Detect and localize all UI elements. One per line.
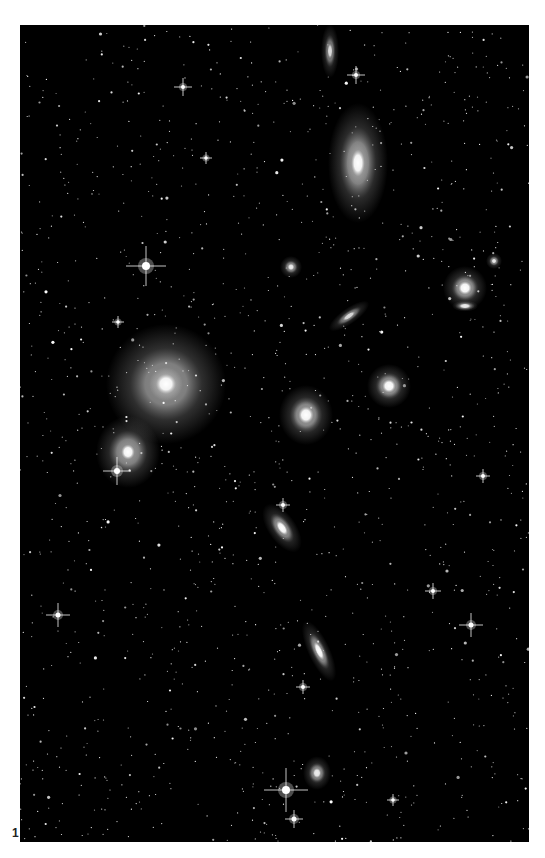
galaxy-spiral-tilted-center [325,296,373,337]
star-field-image [20,25,529,842]
bright-star-icon [387,794,399,806]
galaxy-elliptical-lower-left [96,416,160,488]
bright-star-icon [285,810,303,828]
bright-star-icon [112,316,124,328]
figure-label: 1 [12,826,19,840]
bright-star-icon [200,152,212,164]
galaxy-pair-right-lower [452,300,478,311]
bright-star-icon [126,246,166,286]
bright-star-icon [264,768,308,812]
bright-star-icon [459,613,483,637]
galaxy-edge-on-top [321,25,339,78]
galaxy-edge-on-lower [295,616,343,685]
galaxy-lenticular-top-right [328,103,388,223]
galaxy-elliptical-center-right [367,364,411,408]
galaxy-small-elliptical-bottom [303,756,331,790]
background-stars [20,25,529,842]
star-field [20,25,529,842]
galaxy-small-elliptical-right [486,253,502,269]
bright-star-icon [347,66,365,84]
galaxy-elliptical-center [279,385,333,445]
bright-star-icon [46,603,70,627]
bright-star-icon [174,78,192,96]
bright-star-icon [296,680,310,694]
galaxy-small-elliptical-mid [280,256,302,278]
bright-star-icon [476,469,490,483]
